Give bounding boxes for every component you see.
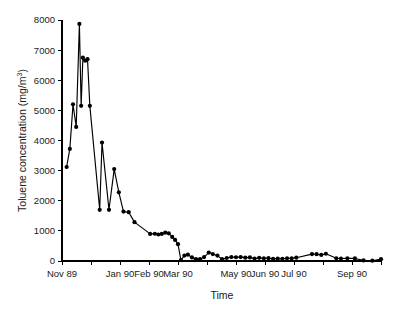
data-point-marker: [266, 256, 270, 260]
y-tick-label: 2000: [34, 195, 55, 206]
data-point-marker: [173, 238, 177, 242]
data-point-marker: [379, 257, 383, 261]
data-point-marker: [186, 253, 190, 257]
data-point-marker: [176, 242, 180, 246]
data-point-marker: [315, 252, 319, 256]
data-point-marker: [68, 147, 72, 151]
data-point-marker: [215, 253, 219, 257]
data-point-marker: [107, 208, 111, 212]
data-point-marker: [65, 165, 69, 169]
y-tick-label: 4000: [34, 135, 55, 146]
data-point-marker: [285, 256, 289, 260]
data-point-marker: [100, 141, 104, 145]
data-point-marker: [319, 253, 323, 257]
data-point-marker: [190, 255, 194, 259]
x-tick-label: Jul 90: [281, 268, 306, 279]
data-point-marker: [77, 22, 81, 26]
data-point-marker: [79, 104, 83, 108]
data-point-marker: [194, 257, 198, 261]
toluene-concentration-line-chart: 010002000300040005000600070008000 Nov 89…: [0, 0, 400, 313]
data-point-marker: [220, 257, 224, 261]
data-point-marker: [257, 256, 261, 260]
y-tick-label: 1000: [34, 225, 55, 236]
y-tick-label: 8000: [34, 14, 55, 25]
data-point-marker: [202, 255, 206, 259]
data-point-marker: [339, 256, 343, 260]
data-point-marker: [294, 256, 298, 260]
x-tick-label: Nov 89: [47, 268, 77, 279]
data-point-marker: [243, 256, 247, 260]
x-tick-label: May 90: [220, 268, 251, 279]
data-point-marker: [324, 252, 328, 256]
y-axis-title-main: Toluene concentration (mg/m: [16, 76, 28, 212]
x-tick-label: Sep 90: [337, 268, 367, 279]
data-point-marker: [234, 255, 238, 259]
data-point-marker: [334, 256, 338, 260]
data-point-marker: [132, 220, 136, 224]
data-point-marker: [276, 256, 280, 260]
y-tick-label: 6000: [34, 75, 55, 86]
x-tick-label: Mar 90: [163, 268, 193, 279]
y-axis-title: Toluene concentration (mg/m3): [14, 69, 28, 212]
chart-figure: 010002000300040005000600070008000 Nov 89…: [0, 0, 400, 313]
data-point-marker: [198, 257, 202, 261]
data-point-marker: [310, 252, 314, 256]
data-point-marker: [98, 208, 102, 212]
data-point-marker: [262, 256, 266, 260]
data-point-marker: [229, 255, 233, 259]
data-point-marker: [280, 257, 284, 261]
data-point-marker: [252, 256, 256, 260]
data-point-marker: [271, 257, 275, 261]
data-point-marker: [167, 231, 171, 235]
x-tick-label: Jan 90: [106, 268, 135, 279]
y-axis-title-tail: ): [16, 69, 28, 73]
data-point-marker: [207, 250, 211, 254]
data-point-marker: [117, 190, 121, 194]
data-point-marker: [239, 255, 243, 259]
x-tick-label: Feb 90: [134, 268, 164, 279]
y-axis-title-text: Toluene concentration (mg/m3): [14, 69, 28, 212]
data-point-marker: [179, 258, 183, 262]
data-point-marker: [153, 232, 157, 236]
data-point-marker: [85, 57, 89, 61]
data-point-marker: [290, 256, 294, 260]
data-point-marker: [211, 252, 215, 256]
data-point-marker: [112, 167, 116, 171]
data-point-marker: [225, 256, 229, 260]
data-point-marker: [362, 258, 366, 262]
x-tick-label: Jun 90: [251, 268, 280, 279]
data-point-marker: [370, 259, 374, 263]
data-point-marker: [121, 209, 125, 213]
data-point-marker: [88, 104, 92, 108]
y-tick-label: 7000: [34, 45, 55, 56]
y-tick-label: 5000: [34, 105, 55, 116]
data-point-marker: [345, 256, 349, 260]
data-point-marker: [248, 255, 252, 259]
y-tick-label: 3000: [34, 165, 55, 176]
x-axis-title: Time: [211, 289, 234, 301]
y-tick-label: 0: [50, 255, 55, 266]
data-point-marker: [127, 210, 131, 214]
data-point-marker: [170, 235, 174, 239]
data-point-marker: [71, 102, 75, 106]
data-point-marker: [353, 256, 357, 260]
chart-background: [0, 0, 400, 313]
data-point-marker: [148, 232, 152, 236]
data-point-marker: [74, 125, 78, 129]
